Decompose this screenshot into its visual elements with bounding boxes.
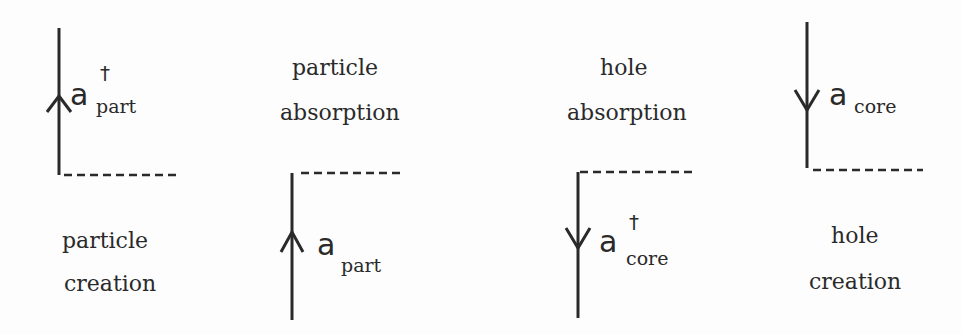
operator-subscript: core [854, 97, 896, 116]
process-label-line1: hole [600, 57, 647, 79]
operator-subscript: part [341, 256, 381, 275]
dagger-symbol: † [100, 63, 110, 83]
diagram-canvas: a † part particle creation particle abso… [0, 0, 961, 334]
process-label-line2: creation [809, 271, 901, 293]
operator-symbol: a [599, 227, 617, 257]
dagger-symbol: † [629, 212, 639, 232]
process-label-line1: hole [831, 225, 878, 247]
process-label-line1: particle [62, 230, 148, 252]
operator-subscript: part [96, 97, 136, 116]
hole-absorption-lines [566, 172, 695, 318]
operator-symbol: a [829, 80, 847, 110]
operator-symbol: a [70, 80, 88, 110]
process-label-line2: absorption [567, 102, 687, 124]
particle-absorption-lines [281, 173, 403, 320]
process-label-line2: absorption [280, 102, 400, 124]
operator-subscript: core [626, 249, 668, 268]
process-label-line1: particle [292, 57, 378, 79]
process-label-line2: creation [64, 273, 156, 295]
operator-symbol: a [317, 230, 335, 260]
